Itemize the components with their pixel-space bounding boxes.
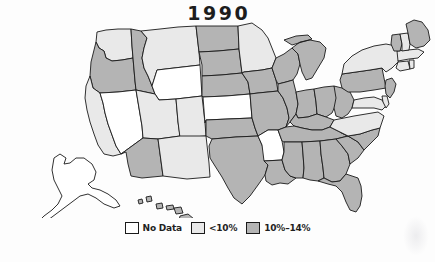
state-MD[interactable]	[352, 97, 386, 110]
state-ND[interactable]	[196, 26, 239, 52]
legend: No Data <10% 10%–14%	[0, 222, 435, 234]
state-NY[interactable]	[342, 44, 400, 74]
state-HI-kauai[interactable]	[146, 196, 152, 202]
state-NE[interactable]	[202, 73, 250, 97]
state-CO[interactable]	[176, 96, 206, 138]
state-NM[interactable]	[158, 136, 210, 179]
state-WY[interactable]	[152, 65, 202, 100]
legend-swatch-low	[191, 222, 205, 234]
us-map-container	[0, 18, 435, 218]
state-MA[interactable]	[397, 49, 424, 61]
state-IN[interactable]	[296, 89, 317, 118]
legend-item-low[interactable]: <10%	[191, 222, 237, 234]
state-SD[interactable]	[199, 49, 242, 76]
state-HI-oahu[interactable]	[156, 203, 163, 209]
state-WI[interactable]	[272, 48, 300, 84]
legend-item-nodata[interactable]: No Data	[125, 222, 182, 234]
legend-label-nodata: No Data	[143, 223, 182, 233]
legend-label-mid: 10%–14%	[264, 223, 310, 233]
state-HI-maui[interactable]	[174, 207, 183, 214]
legend-swatch-mid	[246, 222, 260, 234]
state-HI-bigisland[interactable]	[178, 214, 194, 218]
choropleth-figure: 1990	[0, 0, 435, 262]
state-MN[interactable]	[238, 23, 276, 73]
legend-item-mid[interactable]: 10%–14%	[246, 222, 310, 234]
legend-label-low: <10%	[209, 223, 237, 233]
legend-swatch-nodata	[125, 222, 139, 234]
us-choropleth-map	[0, 18, 435, 218]
state-RI[interactable]	[409, 60, 414, 69]
state-HI-niihau[interactable]	[138, 199, 143, 204]
state-AK[interactable]	[38, 154, 120, 218]
state-ME[interactable]	[406, 20, 430, 48]
state-NJ[interactable]	[385, 78, 396, 98]
state-TX[interactable]	[209, 136, 268, 204]
state-HI-molokai[interactable]	[166, 205, 174, 210]
state-CT[interactable]	[396, 61, 410, 71]
state-OK[interactable]	[206, 118, 258, 139]
